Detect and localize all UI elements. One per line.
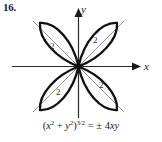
equation-equals-sign: =: [85, 120, 96, 131]
petal-label-lower-left: 2: [56, 87, 61, 97]
equation-outer-exponent: 3/2: [77, 119, 85, 126]
petal-upper-right: [79, 23, 118, 67]
equation-rhs-y: y: [115, 120, 120, 131]
petal-label-upper-left: 2: [50, 41, 55, 51]
x-axis-label: x: [143, 60, 149, 72]
curve-equation: (x2 + y2)3/2 = ± 4xy: [0, 120, 162, 131]
petal-label-lower-right: 2: [99, 80, 104, 90]
y-axis-label: y: [80, 3, 86, 15]
petal-lower-right: [79, 67, 118, 111]
x-axis-arrowhead: [132, 63, 141, 71]
equation-plus-minus-sign: ±: [96, 120, 104, 131]
figure-container: 16. y: [0, 0, 162, 142]
petal-label-upper-right: 2: [93, 35, 98, 45]
petal-upper-left: [40, 23, 79, 67]
equation-plus: +: [54, 120, 65, 131]
